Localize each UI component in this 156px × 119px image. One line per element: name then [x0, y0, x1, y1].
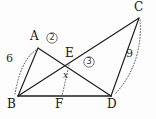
edge-cd — [111, 18, 139, 96]
vertex-label-a: A — [30, 30, 39, 42]
vertex-label-d: D — [107, 98, 117, 110]
length-label-ab: 6 — [6, 53, 13, 64]
length-label-cd: 9 — [126, 48, 133, 59]
segment-label-ef-x: x — [63, 71, 68, 80]
vertex-label-c: C — [134, 1, 143, 13]
region-label-2: 2 — [47, 34, 57, 42]
vertex-label-f: F — [55, 98, 63, 110]
region-label-3: 3 — [84, 58, 94, 66]
vertex-label-b: B — [7, 98, 16, 110]
vertex-label-e: E — [65, 47, 74, 59]
edge-ad — [38, 48, 111, 96]
geometry-figure: A B C D E F 6 9 x 2 3 — [0, 0, 156, 119]
arc-ab-dotted — [15, 50, 36, 94]
